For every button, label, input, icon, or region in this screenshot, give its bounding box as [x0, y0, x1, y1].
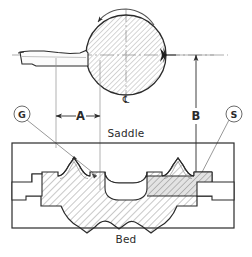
- saddle-label: Saddle: [107, 127, 144, 139]
- cutting-tool: [18, 51, 88, 67]
- cutting-tool-body: [20, 51, 88, 67]
- bed-left-outer-ledge: [12, 174, 42, 200]
- bed-central-pocket: [105, 172, 147, 200]
- callout-g-leader-line: [27, 120, 97, 176]
- callout-s-leader-line: [198, 120, 229, 180]
- technical-drawing-canvas: ℄ A B G S: [0, 0, 252, 257]
- callout-s-label: S: [231, 109, 238, 120]
- dimension-a-label: A: [76, 109, 85, 123]
- workpiece: [86, 15, 166, 95]
- bed-label: Bed: [116, 233, 137, 245]
- bed-section: [12, 156, 234, 233]
- centreline-symbol: ℄: [122, 94, 130, 105]
- lathe-bed-saddle-drawing: ℄ A B G S: [0, 0, 252, 257]
- dimension-b-label: B: [192, 109, 201, 123]
- bed-right-outer-ledge: [197, 182, 234, 200]
- callout-g-label: G: [18, 109, 26, 120]
- dimension-a: A: [56, 109, 100, 123]
